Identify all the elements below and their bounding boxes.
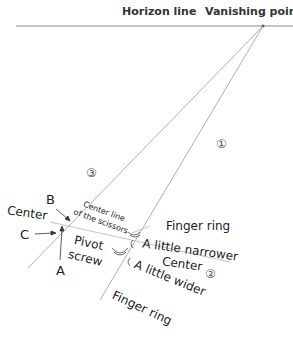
label-C: C — [20, 228, 29, 241]
step-3-marker: ③ — [86, 167, 97, 179]
finger-ring-line — [132, 226, 150, 233]
label-A: A — [56, 264, 65, 277]
perspective-diagram — [0, 0, 293, 343]
vanishing-point-label: Vanishing point — [205, 6, 293, 17]
horizon-line-label: Horizon line — [122, 6, 196, 17]
label-B: B — [46, 193, 55, 206]
step-2-marker: ② — [205, 268, 216, 280]
finger-ring-top-label: Finger ring — [166, 220, 230, 232]
step-1-marker: ① — [216, 138, 227, 150]
